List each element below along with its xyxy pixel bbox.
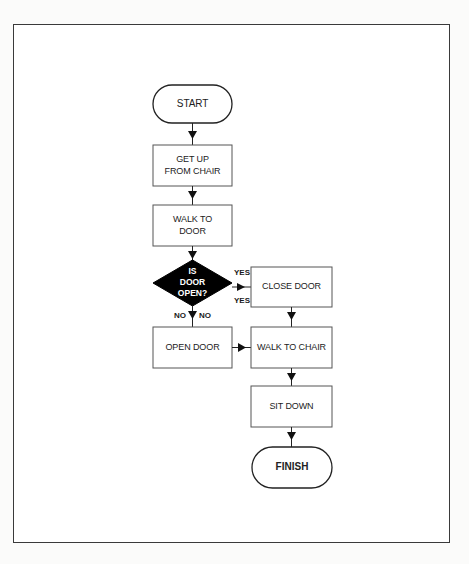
connector-start-to-getup bbox=[188, 123, 197, 145]
arrow-right-icon bbox=[238, 343, 246, 352]
open-door-label: OPEN DOOR bbox=[165, 342, 220, 352]
no-label-left: NO bbox=[174, 311, 186, 320]
decision-node: IS DOOR OPEN? bbox=[153, 260, 232, 306]
finish-label: FINISH bbox=[276, 461, 309, 472]
get-up-node: GET UP FROM CHAIR bbox=[153, 145, 232, 186]
decision-line3: OPEN? bbox=[178, 288, 207, 298]
close-door-node: CLOSE DOOR bbox=[251, 267, 332, 307]
walk-to-door-line2: DOOR bbox=[179, 226, 206, 236]
flowchart: START GET UP FROM CHAIR WALK TO DOOR IS … bbox=[0, 0, 469, 564]
yes-label-top: YES bbox=[234, 268, 251, 277]
yes-label-bottom: YES bbox=[234, 296, 251, 305]
arrow-down-icon bbox=[287, 312, 296, 320]
arrow-down-icon bbox=[188, 251, 197, 259]
open-door-node: OPEN DOOR bbox=[153, 327, 232, 368]
arrow-right-icon bbox=[237, 283, 245, 291]
walk-to-door-node: WALK TO DOOR bbox=[153, 205, 232, 246]
connector-closedoor-to-walkchair bbox=[287, 307, 296, 327]
sit-down-label: SIT DOWN bbox=[269, 401, 313, 411]
connector-no-to-opendoor: NO NO bbox=[174, 306, 211, 327]
connector-sitdown-to-finish bbox=[287, 427, 296, 447]
walk-to-chair-label: WALK TO CHAIR bbox=[257, 342, 327, 352]
arrow-down-icon bbox=[188, 131, 197, 139]
sit-down-node: SIT DOWN bbox=[251, 386, 332, 427]
arrow-down-icon bbox=[188, 191, 197, 199]
get-up-line2: FROM CHAIR bbox=[165, 166, 222, 176]
start-node: START bbox=[153, 85, 232, 123]
no-label-right: NO bbox=[199, 311, 211, 320]
close-door-label: CLOSE DOOR bbox=[262, 281, 322, 291]
connector-opendoor-to-walkchair bbox=[232, 343, 251, 352]
arrow-down-icon bbox=[287, 373, 296, 381]
walk-to-door-line1: WALK TO bbox=[173, 214, 212, 224]
decision-line1: IS bbox=[188, 266, 196, 276]
finish-node: FINISH bbox=[252, 447, 332, 488]
arrow-down-icon bbox=[188, 311, 197, 319]
connector-walkdoor-to-decision bbox=[188, 246, 197, 261]
arrow-down-icon bbox=[287, 432, 296, 440]
connector-yes-to-closedoor: YES YES bbox=[232, 268, 251, 305]
connector-walkchair-to-sitdown bbox=[287, 368, 296, 386]
get-up-line1: GET UP bbox=[176, 154, 209, 164]
start-label: START bbox=[177, 98, 208, 109]
connector-getup-to-walkdoor bbox=[188, 186, 197, 205]
decision-line2: DOOR bbox=[180, 277, 206, 287]
walk-to-chair-node: WALK TO CHAIR bbox=[251, 327, 332, 368]
